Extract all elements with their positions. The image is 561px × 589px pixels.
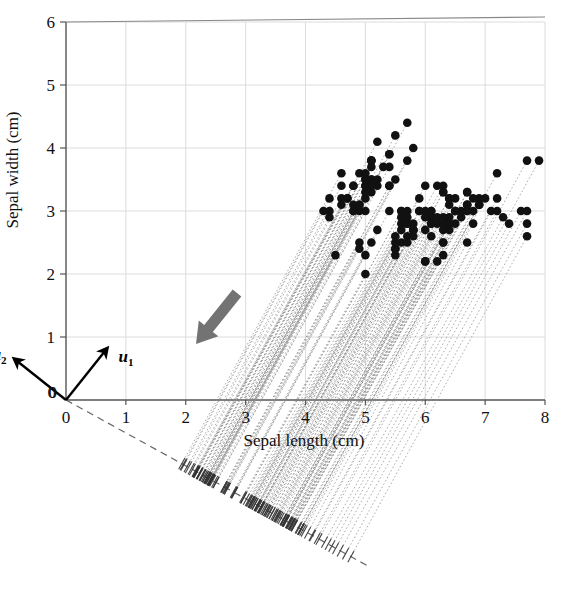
vector-u1 — [66, 352, 104, 400]
data-point — [439, 238, 448, 247]
data-point — [427, 232, 436, 241]
data-point — [493, 194, 502, 203]
data-point — [421, 226, 430, 235]
data-point — [505, 219, 514, 228]
projection-ray — [261, 230, 413, 507]
x-axis-title: Sepal length (cm) — [244, 431, 365, 450]
direction-arrow — [196, 290, 241, 344]
projection-ray — [261, 230, 413, 507]
vector-label-u1: u1 — [118, 347, 133, 368]
data-point — [523, 219, 532, 228]
data-point — [409, 144, 418, 153]
x-tick-label: 3 — [241, 408, 250, 427]
projection-tick — [231, 487, 237, 498]
y-tick-label: 3 — [47, 202, 56, 221]
data-point — [433, 257, 442, 266]
scatter-plot-with-projection: 012345678 123456 u1u20 Sepal length (cm)… — [0, 0, 561, 589]
data-point — [463, 238, 472, 247]
data-point — [421, 182, 430, 191]
data-point — [349, 207, 358, 216]
data-point — [361, 251, 370, 260]
data-point — [403, 119, 412, 128]
vector-u2 — [18, 362, 66, 400]
projection-ray — [202, 167, 371, 475]
data-point — [469, 194, 478, 203]
x-tick-label: 6 — [421, 408, 430, 427]
x-axis-ticks: 012345678 — [62, 400, 550, 427]
x-tick-label: 4 — [301, 408, 310, 427]
data-point — [523, 232, 532, 241]
projection-ray — [251, 217, 407, 501]
data-point — [367, 238, 376, 247]
projection-tick — [348, 551, 354, 562]
y-tick-label: 2 — [47, 265, 56, 284]
data-point — [373, 137, 382, 146]
data-point — [355, 169, 364, 178]
data-point — [361, 270, 370, 279]
projection-ray — [262, 211, 425, 508]
projection-ray — [274, 217, 437, 514]
x-tick-label: 5 — [361, 408, 370, 427]
projection-ray — [313, 211, 491, 536]
origin-label-y: 0 — [48, 383, 57, 402]
projection-ray — [234, 243, 371, 493]
projection-tick — [309, 530, 315, 541]
data-point — [367, 182, 376, 191]
data-point — [337, 169, 346, 178]
projection-ray — [285, 211, 455, 520]
projection-ray — [261, 230, 413, 507]
projection-ray — [294, 198, 474, 525]
projection-tick-marks — [179, 458, 354, 562]
projection-ray — [325, 217, 504, 542]
data-point — [361, 207, 370, 216]
projection-ray — [261, 230, 413, 507]
data-point — [415, 207, 424, 216]
data-point — [409, 226, 418, 235]
x-tick-label: 0 — [62, 408, 71, 427]
data-point — [499, 213, 508, 222]
data-point — [439, 251, 448, 260]
data-point — [391, 232, 400, 241]
projection-ray — [200, 173, 365, 474]
projection-tick — [342, 548, 348, 559]
data-point — [535, 156, 544, 165]
data-point — [439, 219, 448, 228]
data-point — [385, 182, 394, 191]
data-point — [493, 207, 502, 216]
projection-ray — [257, 243, 401, 505]
data-point — [463, 188, 472, 197]
projection-tick — [337, 545, 343, 556]
x-tick-label: 2 — [182, 408, 191, 427]
data-point — [337, 182, 346, 191]
y-axis-title: Sepal width (cm) — [3, 111, 22, 228]
y-tick-label: 1 — [47, 328, 56, 347]
data-point — [451, 207, 460, 216]
data-point — [331, 251, 340, 260]
projection-ray — [351, 236, 527, 556]
projection-tick — [241, 492, 247, 503]
data-point — [385, 150, 394, 159]
projection-ray — [199, 161, 371, 474]
data-point — [355, 200, 364, 209]
data-point — [325, 194, 334, 203]
data-point — [397, 219, 406, 228]
y-tick-label: 4 — [47, 139, 56, 158]
projection-ray — [264, 236, 414, 508]
data-point — [361, 175, 370, 184]
projection-ray — [268, 192, 443, 511]
data-point — [355, 238, 364, 247]
data-point — [361, 188, 370, 197]
y-tick-label: 6 — [47, 13, 56, 32]
data-point — [469, 219, 478, 228]
x-tick-label: 1 — [122, 408, 131, 427]
data-point — [463, 207, 472, 216]
projection-tick — [310, 530, 316, 541]
projection-ray — [267, 211, 432, 510]
direction-arrow-shape — [196, 290, 241, 344]
figure-container: 012345678 123456 u1u20 Sepal length (cm)… — [0, 0, 561, 589]
projection-ray — [285, 211, 455, 520]
projection-ray — [246, 217, 401, 499]
data-point — [367, 156, 376, 165]
y-axis-ticks: 123456 — [47, 13, 67, 347]
data-point — [325, 207, 334, 216]
